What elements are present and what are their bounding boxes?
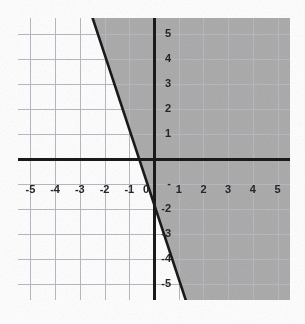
y-tick-label: -4 bbox=[149, 253, 171, 265]
y-tick-label: -3 bbox=[149, 228, 171, 240]
y-tick-label: 5 bbox=[149, 28, 171, 40]
inequality-graph-figure: -5-4-3-2-1012345 54321--2-3-4-5 bbox=[0, 0, 305, 324]
x-tick-label: 4 bbox=[242, 184, 264, 195]
x-tick-label: -4 bbox=[44, 184, 66, 195]
y-tick-label: - bbox=[149, 178, 171, 190]
x-tick-label: 3 bbox=[217, 184, 239, 195]
x-tick-label: -3 bbox=[69, 184, 91, 195]
x-tick-label: 2 bbox=[192, 184, 214, 195]
y-tick-label: 2 bbox=[149, 103, 171, 115]
x-tick-label: -2 bbox=[94, 184, 116, 195]
x-tick-label: -1 bbox=[118, 184, 140, 195]
x-tick-label: 5 bbox=[267, 184, 289, 195]
y-tick-label: -2 bbox=[149, 203, 171, 215]
plot-area: -5-4-3-2-1012345 54321--2-3-4-5 bbox=[18, 18, 290, 300]
y-tick-label: 1 bbox=[149, 128, 171, 140]
y-tick-label: 4 bbox=[149, 53, 171, 65]
x-tick-label: 1 bbox=[168, 184, 190, 195]
y-tick-label: -5 bbox=[149, 278, 171, 290]
y-tick-label: 3 bbox=[149, 78, 171, 90]
x-tick-label: -5 bbox=[19, 184, 41, 195]
